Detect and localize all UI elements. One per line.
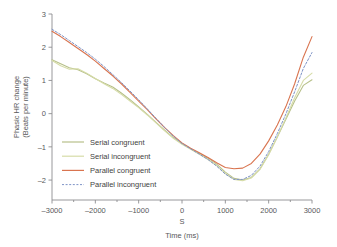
legend-label-serial-congruent: Serial congruent [90,138,146,147]
x-tick-label: 1000 [217,206,234,215]
y-tick-label: 0 [42,109,46,118]
y-tick-label: 3 [42,10,46,19]
y-axis-title-line2: (Beats per minute) [21,76,30,138]
y-axis-title-line1: Phasic HR change [12,76,21,138]
x-tick-label: –3000 [42,206,63,215]
x-tick-label: 0 [180,206,184,215]
phasic-hr-change-line-chart: –3000–2000–100001000200030003210–1–2 Ser… [0,0,337,247]
legend-label-parallel-congruent: Parallel congruent [90,166,151,175]
stimulus-onset-label: S [179,217,184,226]
legend-label-parallel-incongruent: Parallel incongruent [90,180,157,189]
legend-label-serial-incongruent: Serial incongruent [90,152,151,161]
y-tick-label: –2 [38,176,46,185]
y-tick-label: 2 [42,43,46,52]
x-tick-label: –1000 [128,206,149,215]
x-axis-title: Time (ms) [165,231,199,240]
y-tick-label: –1 [38,143,46,152]
x-tick-label: 2000 [260,206,277,215]
x-tick-label: –2000 [85,206,106,215]
x-tick-label: 3000 [304,206,321,215]
y-tick-label: 1 [42,76,46,85]
